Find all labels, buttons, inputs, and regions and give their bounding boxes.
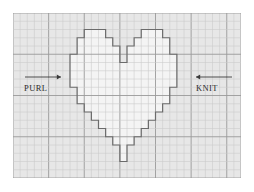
arrow-group [25,75,232,80]
stitch-chart: PURL KNIT [13,13,241,178]
annotation-arrows-layer [13,13,241,178]
arrow-head-purl [57,75,61,80]
knit-annotation-label: KNIT [196,84,218,93]
purl-annotation-label: PURL [24,84,47,93]
arrow-head-knit [196,75,200,80]
